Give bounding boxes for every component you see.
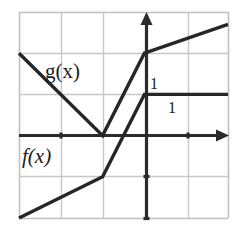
coordinate-plane-svg: g(x) f(x) 1 1 [0, 0, 244, 232]
label-g-of-x: g(x) [45, 59, 80, 83]
x-axis-arrow-icon [216, 130, 229, 142]
unit-label-y: 1 [150, 75, 158, 92]
y-axis-arrow-icon [141, 12, 153, 25]
graph-figure: g(x) f(x) 1 1 [0, 0, 244, 232]
label-f-of-x: f(x) [22, 144, 51, 168]
unit-label-x: 1 [168, 99, 176, 116]
grid-lines [19, 12, 229, 219]
axes [19, 12, 229, 219]
